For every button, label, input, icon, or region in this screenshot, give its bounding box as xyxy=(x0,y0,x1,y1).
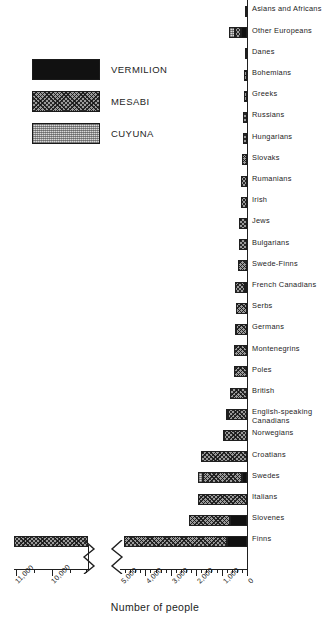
category-label: Bohemians xyxy=(252,69,291,78)
x-tick xyxy=(140,570,141,573)
bar-segment-mesabi xyxy=(203,472,242,483)
bar-segment-mesabi xyxy=(228,409,247,420)
bar-row xyxy=(0,324,336,335)
category-label: British xyxy=(252,387,274,396)
category-label: Slovenes xyxy=(252,514,284,523)
plot-area: Asians and AfricansOther EuropeansDanesB… xyxy=(0,0,336,626)
zero-baseline xyxy=(247,0,248,570)
bar-segment-mesabi xyxy=(234,345,247,356)
bar-segment-mesabi xyxy=(239,239,247,250)
bar-segment-vermilion xyxy=(227,536,247,547)
category-label: Russians xyxy=(252,111,284,120)
bar-segment-cuyuna xyxy=(198,472,203,483)
category-label: Irish xyxy=(252,196,267,205)
bar-segment-cuyuna xyxy=(223,430,225,441)
bar-row-break-continuation xyxy=(0,536,120,547)
chart-root: VERMILION MESABI CUYUNA Asians and Afric… xyxy=(0,0,336,626)
bar-row xyxy=(0,197,336,208)
bar-row xyxy=(0,303,336,314)
category-label: Germans xyxy=(252,323,284,332)
category-label: French Canadians xyxy=(252,281,316,290)
x-axis-title: Number of people xyxy=(60,601,250,613)
bar-row xyxy=(0,515,336,526)
bar-segment-mesabi xyxy=(235,27,241,38)
bar-segment-mesabi xyxy=(224,430,247,441)
category-label: Poles xyxy=(252,366,272,375)
x-tick xyxy=(242,570,243,573)
bar-segment-cuyuna xyxy=(226,409,228,420)
bar-segment-mesabi xyxy=(236,324,247,335)
bar-row xyxy=(0,366,336,377)
bar-row xyxy=(0,154,336,165)
bar-segment-mesabi xyxy=(239,218,247,229)
category-label: Italians xyxy=(252,493,277,502)
bar-segment-mesabi xyxy=(198,494,247,505)
category-label: Other Europeans xyxy=(252,27,312,36)
bar-segment-mesabi xyxy=(189,515,230,526)
category-label: Danes xyxy=(252,48,275,57)
category-label: Croatians xyxy=(252,451,286,460)
bar-segment-mesabi xyxy=(201,451,247,462)
bar-segment-mesabi xyxy=(236,303,247,314)
category-label: Slovaks xyxy=(252,154,280,163)
bar-row xyxy=(0,48,336,59)
bar-row xyxy=(0,91,336,102)
bar-row xyxy=(0,494,336,505)
category-label: Asians and Africans xyxy=(252,5,322,14)
axis-break-zigzag-icon xyxy=(108,540,124,574)
category-label: Swede-Finns xyxy=(252,260,298,269)
x-tick xyxy=(166,570,167,573)
category-label: Hungarians xyxy=(252,133,292,142)
bar-segment-mesabi xyxy=(230,388,247,399)
bar-segment-mesabi xyxy=(238,260,247,271)
bar-segment-mesabi xyxy=(234,366,247,377)
category-label: Serbs xyxy=(252,302,273,311)
category-label: English-speaking Canadians xyxy=(252,408,336,425)
category-label: Bulgarians xyxy=(252,239,289,248)
category-label: Greeks xyxy=(252,90,277,99)
bar-segment-cuyuna xyxy=(229,27,235,38)
x-tick xyxy=(171,570,172,576)
bar-row xyxy=(0,218,336,229)
bar-segment-vermilion xyxy=(230,515,247,526)
bar-segment-cuyuna xyxy=(235,324,237,335)
category-label: Swedes xyxy=(252,472,280,481)
category-label: Norwegians xyxy=(252,429,294,438)
x-tick xyxy=(191,570,192,573)
bar-segment-mesabi-continuation xyxy=(14,536,88,547)
bar-segment-mesabi xyxy=(235,282,245,293)
category-label: Montenegrins xyxy=(252,345,300,354)
x-tick xyxy=(217,570,218,573)
category-label: Finns xyxy=(252,535,271,544)
bar-row xyxy=(0,388,336,399)
x-tick xyxy=(222,570,223,576)
bar-row xyxy=(0,472,336,483)
bar-row xyxy=(0,112,336,123)
x-tick xyxy=(247,570,248,576)
category-label: Rumanians xyxy=(252,175,292,184)
category-label: Jews xyxy=(252,217,270,226)
bar-segment-mesabi xyxy=(124,536,227,547)
axis-break-zigzag-icon xyxy=(82,540,98,574)
